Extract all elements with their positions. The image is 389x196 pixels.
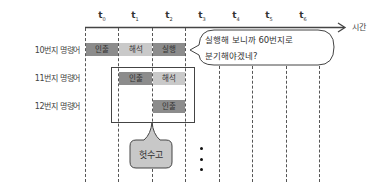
wasted-bubble-text: 헛수고 (130, 148, 172, 161)
ellipsis-dot (200, 147, 203, 150)
ellipsis-dot (200, 168, 203, 171)
ellipsis-dot (200, 158, 203, 161)
wasted-bubble-shape (0, 0, 389, 196)
